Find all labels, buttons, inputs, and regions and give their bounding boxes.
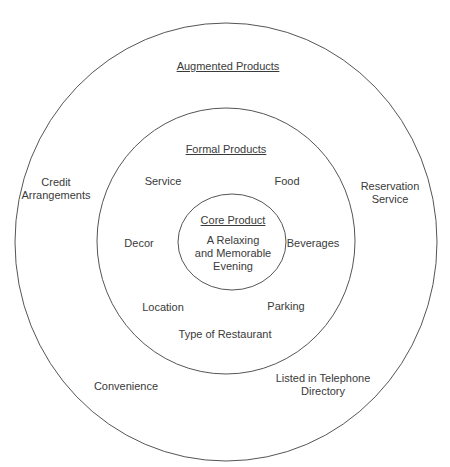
parking-label: Parking bbox=[267, 300, 304, 313]
core-product-title: Core Product bbox=[201, 214, 266, 227]
credit-arrangements-label: Credit Arrangements bbox=[21, 176, 90, 202]
core-line-3: Evening bbox=[195, 260, 271, 273]
formal-products-title: Formal Products bbox=[186, 143, 267, 156]
beverages-label: Beverages bbox=[287, 237, 340, 250]
type-of-restaurant-label: Type of Restaurant bbox=[179, 328, 272, 341]
location-label: Location bbox=[142, 301, 184, 314]
augmented-products-title: Augmented Products bbox=[177, 60, 280, 73]
reservation-service-label: Reservation Service bbox=[361, 180, 420, 206]
telephone-line-1: Listed in Telephone bbox=[276, 372, 371, 385]
reservation-line-2: Service bbox=[361, 193, 420, 206]
telephone-line-2: Directory bbox=[276, 385, 371, 398]
core-line-2: and Memorable bbox=[195, 247, 271, 260]
telephone-directory-label: Listed in Telephone Directory bbox=[276, 372, 371, 398]
reservation-line-1: Reservation bbox=[361, 180, 420, 193]
convenience-label: Convenience bbox=[94, 380, 158, 393]
core-line-1: A Relaxing bbox=[195, 234, 271, 247]
credit-line-2: Arrangements bbox=[21, 189, 90, 202]
decor-label: Decor bbox=[124, 237, 153, 250]
core-product-description: A Relaxing and Memorable Evening bbox=[195, 234, 271, 273]
food-label: Food bbox=[274, 175, 299, 188]
credit-line-1: Credit bbox=[21, 176, 90, 189]
service-label: Service bbox=[145, 175, 182, 188]
